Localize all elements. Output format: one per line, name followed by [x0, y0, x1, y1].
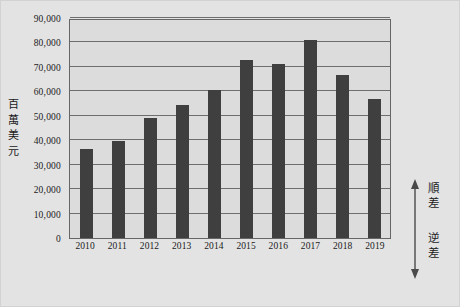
bar-2019[interactable] — [368, 99, 381, 238]
gridline — [70, 17, 390, 18]
bar-slot — [70, 20, 102, 238]
bar-slot — [198, 20, 230, 238]
bar-slot — [326, 20, 358, 238]
x-axis-tick-label: 2011 — [101, 241, 133, 251]
bar-slot — [134, 20, 166, 238]
x-axis-tick-label: 2014 — [198, 241, 230, 251]
y-axis-tick-label: 10,000 — [34, 210, 61, 220]
y-axis-tick-label: 30,000 — [34, 161, 61, 171]
bar-slot — [230, 20, 262, 238]
bar-2014[interactable] — [208, 90, 221, 238]
y-axis-tick-label: 80,000 — [34, 38, 61, 48]
bar-2017[interactable] — [304, 40, 317, 238]
bar-slot — [166, 20, 198, 238]
x-axis-tick-label: 2010 — [69, 241, 101, 251]
y-axis-tick-label: 50,000 — [34, 112, 61, 122]
bar-slot — [262, 20, 294, 238]
y-axis-tick-label: 90,000 — [34, 14, 61, 24]
x-axis-tick-label: 2016 — [262, 241, 294, 251]
surplus-label-char: 差 — [425, 196, 441, 211]
x-axis-tick-label: 2018 — [327, 241, 359, 251]
y-axis-tick-label: 60,000 — [34, 87, 61, 97]
bar-slot — [294, 20, 326, 238]
plot-area — [69, 19, 391, 239]
x-axis-tick-label: 2012 — [133, 241, 165, 251]
bar-2012[interactable] — [144, 118, 157, 238]
double-arrow-icon — [405, 177, 425, 281]
bar-2015[interactable] — [240, 60, 253, 238]
y-axis-tick-label: 70,000 — [34, 63, 61, 73]
bar-slot — [102, 20, 134, 238]
y-axis-tick-label: 0 — [56, 234, 61, 244]
surplus-label-char: 順 — [425, 181, 441, 196]
y-axis-tick-labels: 010,00020,00030,00040,00050,00060,00070,… — [1, 19, 65, 239]
x-axis-tick-label: 2015 — [230, 241, 262, 251]
surplus-label: 順 差 — [425, 181, 441, 211]
bar-chart-figure: 百 萬 美 元 010,00020,00030,00040,00050,0006… — [0, 0, 460, 307]
bar-2018[interactable] — [336, 75, 349, 238]
x-axis-tick-labels: 2010201120122013201420152016201720182019 — [69, 241, 391, 251]
bar-2013[interactable] — [176, 105, 189, 238]
x-axis-tick-label: 2019 — [359, 241, 391, 251]
deficit-label: 逆 差 — [425, 231, 441, 261]
deficit-label-char: 逆 — [425, 231, 441, 246]
surplus-deficit-annotation: 順 差 逆 差 — [405, 177, 453, 281]
bar-2011[interactable] — [112, 141, 125, 238]
x-axis-tick-label: 2017 — [294, 241, 326, 251]
y-axis-tick-label: 40,000 — [34, 136, 61, 146]
bar-2010[interactable] — [80, 149, 93, 238]
bar-slot — [358, 20, 390, 238]
x-axis-tick-label: 2013 — [166, 241, 198, 251]
bar-2016[interactable] — [272, 64, 285, 238]
deficit-label-char: 差 — [425, 246, 441, 261]
bar-series — [70, 20, 390, 238]
y-axis-tick-label: 20,000 — [34, 185, 61, 195]
